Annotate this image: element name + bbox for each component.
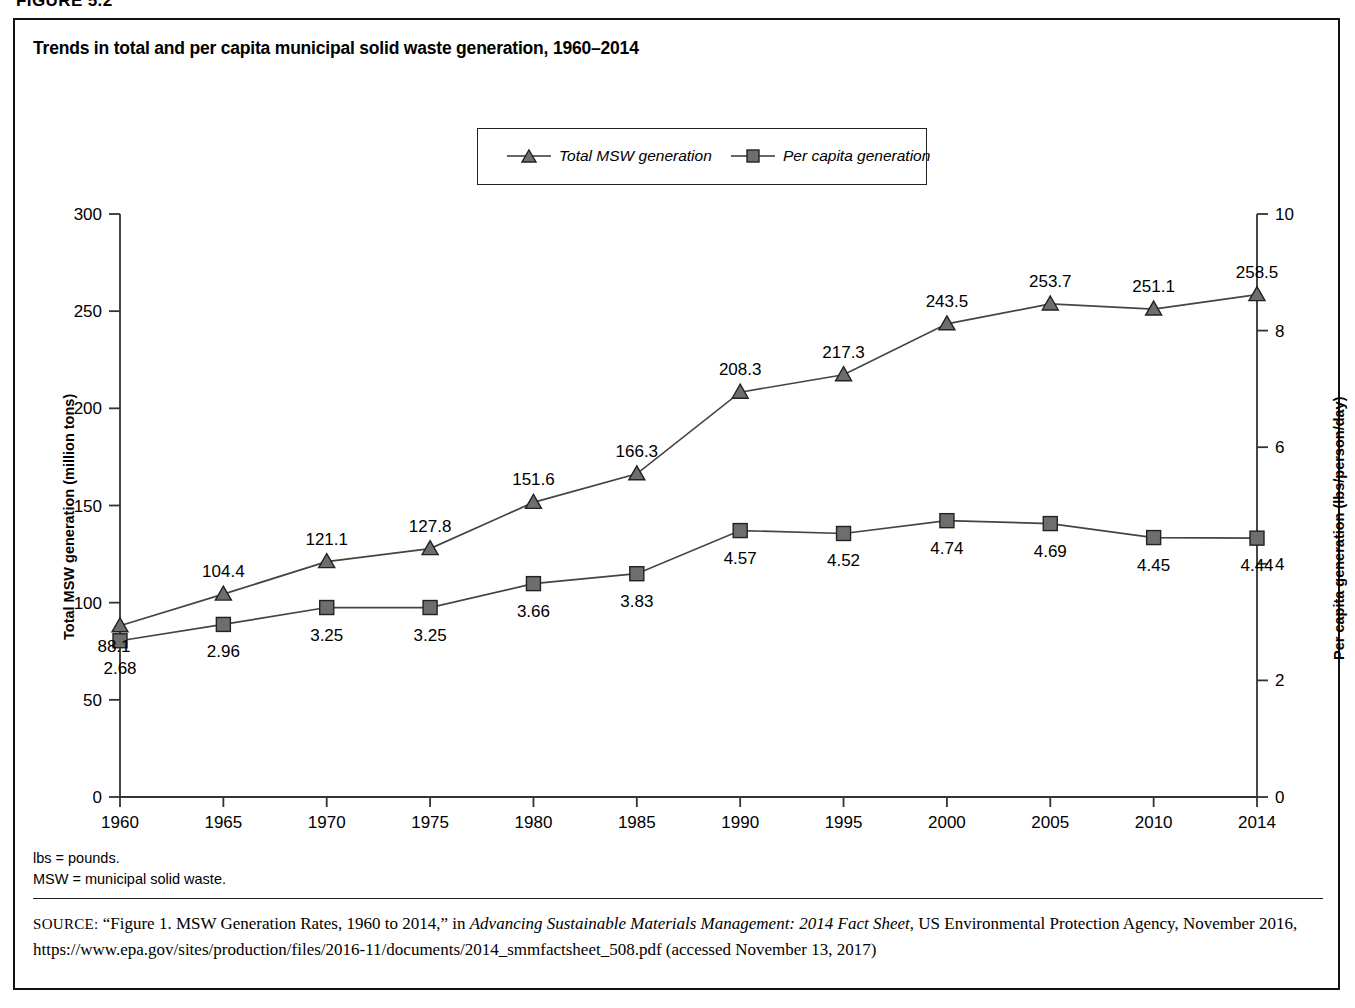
legend-item-per-capita: Per capita generation bbox=[730, 141, 930, 171]
x-axis-tick-label: 1990 bbox=[721, 813, 759, 830]
x-axis-tick-label: 2014 bbox=[1238, 813, 1276, 830]
per-capita-point bbox=[1250, 531, 1264, 545]
y-axis-left-tick-label: 100 bbox=[74, 594, 102, 613]
data-label-per-capita: 3.25 bbox=[414, 626, 447, 645]
figure-notes: lbs = pounds. MSW = municipal solid wast… bbox=[33, 848, 226, 890]
total-msw-point bbox=[215, 586, 231, 600]
x-axis-tick-label: 1995 bbox=[825, 813, 863, 830]
data-label-total-msw: 166.3 bbox=[616, 442, 659, 461]
legend-item-total-msw: Total MSW generation bbox=[506, 141, 712, 171]
total-msw-point bbox=[629, 466, 645, 480]
total-msw-point bbox=[939, 316, 955, 330]
data-label-total-msw: 243.5 bbox=[926, 292, 969, 311]
per-capita-point bbox=[1147, 531, 1161, 545]
y-axis-right-tick-label: 4 bbox=[1275, 555, 1284, 574]
data-label-total-msw: 217.3 bbox=[822, 343, 865, 362]
total-msw-point bbox=[1146, 301, 1162, 315]
total-msw-point bbox=[525, 494, 541, 508]
source-text-before: “Figure 1. MSW Generation Rates, 1960 to… bbox=[98, 914, 469, 933]
x-axis-tick-label: 1975 bbox=[411, 813, 449, 830]
data-label-per-capita: 3.66 bbox=[517, 602, 550, 621]
figure-number: FIGURE 5.2 bbox=[16, 0, 113, 11]
data-label-per-capita: 2.96 bbox=[207, 642, 240, 661]
source-note: SOURCE: “Figure 1. MSW Generation Rates,… bbox=[33, 911, 1325, 963]
legend-label-total-msw: Total MSW generation bbox=[559, 147, 712, 165]
data-label-total-msw: 208.3 bbox=[719, 360, 762, 379]
data-label-total-msw: 253.7 bbox=[1029, 272, 1072, 291]
y-axis-left-tick-label: 50 bbox=[83, 691, 102, 710]
total-msw-point bbox=[319, 554, 335, 568]
per-capita-point bbox=[733, 524, 747, 538]
per-capita-point bbox=[1043, 517, 1057, 531]
x-axis-tick-label: 1985 bbox=[618, 813, 656, 830]
x-axis-tick-label: 2005 bbox=[1031, 813, 1069, 830]
data-label-total-msw: 151.6 bbox=[512, 470, 555, 489]
source-publication-title: Advancing Sustainable Materials Manageme… bbox=[470, 914, 910, 933]
data-label-per-capita: 4.45 bbox=[1137, 556, 1170, 575]
y-axis-left-tick-label: 200 bbox=[74, 399, 102, 418]
data-label-per-capita: 4.69 bbox=[1034, 542, 1067, 561]
figure-frame: Trends in total and per capita municipal… bbox=[13, 18, 1340, 990]
note-lbs: lbs = pounds. bbox=[33, 848, 226, 869]
data-label-per-capita: 3.25 bbox=[310, 626, 343, 645]
x-axis-tick-label: 1980 bbox=[515, 813, 553, 830]
data-label-per-capita: 4.57 bbox=[724, 549, 757, 568]
triangle-marker-icon bbox=[506, 148, 552, 164]
data-label-total-msw: 127.8 bbox=[409, 517, 452, 536]
square-marker-icon bbox=[730, 148, 776, 164]
y-axis-left-tick-label: 0 bbox=[93, 788, 102, 807]
data-label-total-msw: 251.1 bbox=[1132, 277, 1175, 296]
data-label-per-capita: 4.44 bbox=[1240, 556, 1273, 575]
legend-label-per-capita: Per capita generation bbox=[783, 147, 930, 165]
y-axis-right-tick-label: 10 bbox=[1275, 205, 1294, 224]
per-capita-point bbox=[630, 567, 644, 581]
total-msw-point bbox=[1249, 287, 1265, 301]
per-capita-point bbox=[526, 577, 540, 591]
data-label-total-msw: 258.5 bbox=[1236, 263, 1279, 282]
per-capita-point bbox=[423, 601, 437, 615]
per-capita-point bbox=[113, 634, 127, 648]
y-axis-left-title: Total MSW generation (million tons) bbox=[61, 394, 77, 640]
y-axis-left-tick-label: 150 bbox=[74, 497, 102, 516]
per-capita-point bbox=[320, 601, 334, 615]
chart-legend: Total MSW generation Per capita generati… bbox=[477, 128, 927, 185]
y-axis-right-tick-label: 6 bbox=[1275, 438, 1284, 457]
x-axis-tick-label: 1970 bbox=[308, 813, 346, 830]
total-msw-point bbox=[112, 618, 128, 632]
y-axis-right-tick-label: 8 bbox=[1275, 322, 1284, 341]
y-axis-right-tick-label: 2 bbox=[1275, 671, 1284, 690]
total-msw-point bbox=[422, 541, 438, 555]
y-axis-left-tick-label: 300 bbox=[74, 205, 102, 224]
total-msw-point bbox=[732, 384, 748, 398]
per-capita-point bbox=[837, 526, 851, 540]
total-msw-line bbox=[120, 295, 1257, 626]
x-axis-tick-label: 2010 bbox=[1135, 813, 1173, 830]
total-msw-point bbox=[836, 367, 852, 381]
data-label-total-msw: 88.1 bbox=[97, 637, 130, 656]
data-label-per-capita: 2.68 bbox=[103, 659, 136, 678]
x-axis-tick-label: 2000 bbox=[928, 813, 966, 830]
y-axis-right-tick-label: 0 bbox=[1275, 788, 1284, 807]
note-msw: MSW = municipal solid waste. bbox=[33, 869, 226, 890]
data-label-per-capita: 4.74 bbox=[930, 539, 963, 558]
x-axis-tick-label: 1960 bbox=[101, 813, 139, 830]
per-capita-line bbox=[120, 521, 1257, 641]
per-capita-point bbox=[216, 617, 230, 631]
y-axis-left-tick-label: 250 bbox=[74, 302, 102, 321]
data-label-per-capita: 4.52 bbox=[827, 551, 860, 570]
figure-title: Trends in total and per capita municipal… bbox=[33, 38, 639, 59]
per-capita-point bbox=[940, 514, 954, 528]
source-divider bbox=[33, 898, 1323, 899]
data-label-per-capita: 3.83 bbox=[620, 592, 653, 611]
y-axis-right-title: Per capita generation (lbs/person/day) bbox=[1331, 397, 1347, 661]
source-label: SOURCE: bbox=[33, 916, 98, 932]
x-axis-tick-label: 1965 bbox=[204, 813, 242, 830]
data-label-total-msw: 121.1 bbox=[305, 530, 348, 549]
data-label-total-msw: 104.4 bbox=[202, 562, 245, 581]
total-msw-point bbox=[1042, 296, 1058, 310]
